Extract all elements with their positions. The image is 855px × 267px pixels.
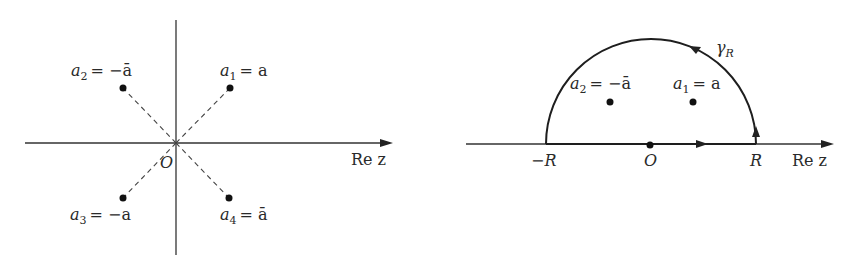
point-a4 <box>226 195 233 202</box>
dashed-ray-a1 <box>176 88 230 143</box>
origin-label: O <box>644 151 657 170</box>
label-a4: a4= ā <box>220 205 268 227</box>
complex-plane-figures: a1= a a2= −ā a3= −a a4= ā O Re z a2= −ā … <box>0 0 855 267</box>
arc-start-arrow-icon <box>752 126 760 137</box>
point-a2 <box>607 99 614 106</box>
real-axis-label: Re z <box>792 151 827 170</box>
segment-direction-arrow-icon <box>696 140 708 148</box>
real-axis-arrow-icon <box>380 139 393 147</box>
point-a3 <box>120 195 127 202</box>
origin-label: O <box>160 153 173 172</box>
point-a1 <box>227 85 234 92</box>
right-panel-contour-diagram: a2= −ā a1= a γR −R O R Re z <box>466 38 834 170</box>
label-a1: a1= a <box>220 61 268 83</box>
dashed-ray-a4 <box>176 143 229 198</box>
right-endpoint-label: R <box>749 151 762 170</box>
point-a1 <box>690 99 697 106</box>
real-axis-label: Re z <box>351 150 386 169</box>
arc-label-gamma-r: γR <box>716 38 734 60</box>
left-panel-pole-diagram: a1= a a2= −ā a3= −a a4= ā O Re z <box>25 20 393 255</box>
point-a2 <box>120 85 127 92</box>
label-a1: a1= a <box>673 74 721 96</box>
label-a2: a2= −ā <box>71 61 132 83</box>
left-endpoint-label: −R <box>531 151 556 170</box>
label-a3: a3= −a <box>70 205 131 227</box>
dashed-ray-a2 <box>123 88 176 143</box>
origin-point <box>647 142 654 149</box>
label-a2: a2= −ā <box>570 74 631 96</box>
real-axis-arrow-icon <box>821 140 834 148</box>
